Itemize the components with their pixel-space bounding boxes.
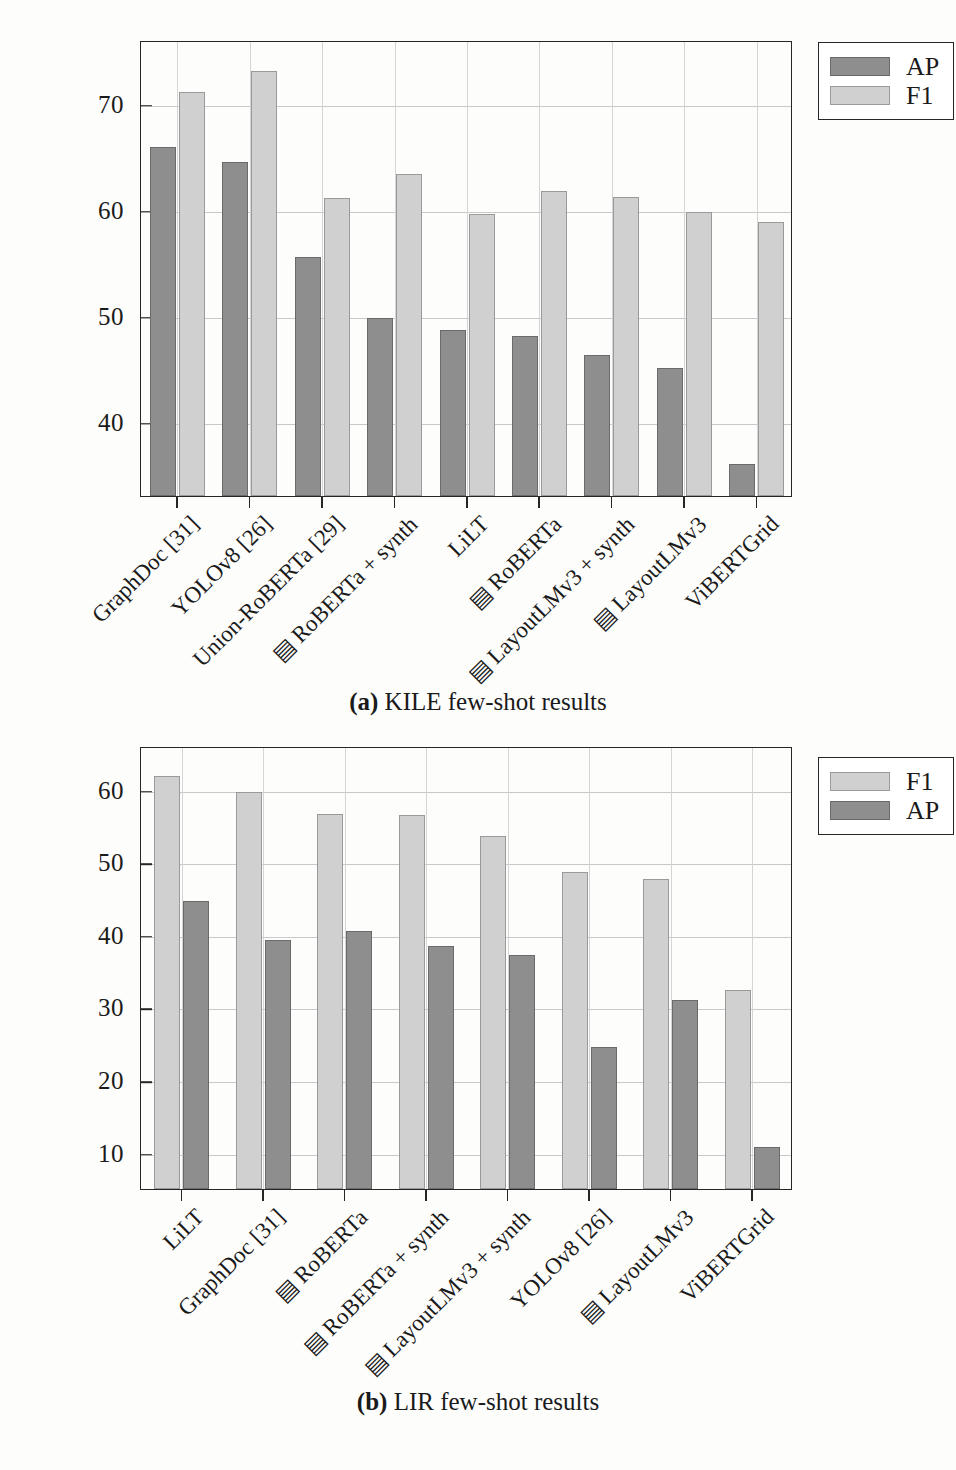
x-tick-label: ▤RoBERTa + synth (266, 511, 422, 667)
legend-item-ap: AP (830, 796, 939, 825)
bar-ap (657, 368, 683, 496)
x-tick-mark (181, 1190, 183, 1201)
legend-swatch-ap (830, 57, 890, 76)
axes-frame-lir (140, 747, 792, 1190)
y-tick-mark (141, 936, 152, 938)
x-gridline (752, 748, 753, 1189)
legend-label: AP (906, 52, 939, 82)
bar-ap (367, 318, 393, 496)
y-tick-label: 50 (72, 849, 124, 877)
x-tick-mark (466, 497, 468, 508)
y-gridline (141, 106, 791, 107)
legend-item-f1: F1 (830, 767, 939, 796)
legend-lir: F1AP (818, 757, 954, 835)
bar-f1 (396, 174, 422, 496)
figure-kile: APF1 (a) KILE few-shot results 40506070A… (0, 0, 956, 735)
bar-ap (295, 257, 321, 496)
y-tick-label: 50 (72, 303, 124, 331)
bar-ap (265, 940, 291, 1189)
x-tick-label: LiLT (443, 511, 494, 562)
plot-area-lir (140, 747, 792, 1190)
bar-ap (512, 336, 538, 496)
y-tick-label: 60 (72, 777, 124, 805)
caption-label: (a) (349, 688, 378, 715)
legend-kile: APF1 (818, 42, 954, 120)
x-tick-label: LiLT (158, 1204, 209, 1255)
y-tick-mark (141, 1154, 152, 1156)
y-tick-mark (141, 791, 152, 793)
y-tick-label: 10 (72, 1140, 124, 1168)
caption-text: KILE few-shot results (385, 688, 607, 715)
y-tick-label: 20 (72, 1067, 124, 1095)
bar-f1 (758, 222, 784, 496)
bar-ap (754, 1147, 780, 1189)
legend-swatch-ap (830, 801, 890, 820)
legend-label: F1 (906, 767, 933, 797)
legend-item-ap: AP (830, 52, 939, 81)
x-tick-mark (683, 497, 685, 508)
x-tick-mark (588, 1190, 590, 1201)
bar-f1 (324, 198, 350, 496)
x-tick-mark (670, 1190, 672, 1201)
bar-ap (672, 1000, 698, 1189)
bar-f1 (643, 879, 669, 1189)
y-tick-mark (141, 863, 152, 865)
bar-ap (346, 931, 372, 1189)
axes-frame-kile (140, 41, 792, 497)
caption-lir: (b) LIR few-shot results (0, 1388, 956, 1416)
legend-label: AP (906, 796, 939, 826)
bar-ap (150, 147, 176, 496)
bar-f1 (541, 191, 567, 496)
y-tick-label: 60 (72, 197, 124, 225)
bar-f1 (154, 776, 180, 1189)
x-tick-mark (321, 497, 323, 508)
bar-f1 (317, 814, 343, 1189)
caption-kile: (a) KILE few-shot results (0, 688, 956, 716)
bar-f1 (251, 71, 277, 496)
bar-ap (183, 901, 209, 1189)
bar-f1 (725, 990, 751, 1189)
bar-f1 (236, 792, 262, 1189)
x-tick-mark (611, 497, 613, 508)
y-tick-mark (141, 105, 152, 107)
x-tick-mark (344, 1190, 346, 1201)
legend-item-f1: F1 (830, 81, 939, 110)
legend-label: F1 (906, 81, 933, 111)
x-tick-label-text: RoBERTa + synth (286, 512, 422, 648)
y-tick-label: 70 (72, 91, 124, 119)
caption-label: (b) (357, 1388, 388, 1415)
bar-ap (509, 955, 535, 1189)
x-tick-mark (538, 497, 540, 508)
bar-f1 (613, 197, 639, 496)
x-tick-label-text: LayoutLMv3 + synth (378, 1205, 535, 1362)
bar-f1 (399, 815, 425, 1189)
x-tick-label-text: RoBERTa (289, 1205, 372, 1288)
bar-ap (584, 355, 610, 496)
bar-ap (591, 1047, 617, 1189)
bar-ap (428, 946, 454, 1189)
bar-ap (222, 162, 248, 496)
figure-lir: F1AP (b) LIR few-shot results 1020304050… (0, 735, 956, 1470)
y-tick-label: 30 (72, 994, 124, 1022)
legend-swatch-f1 (830, 772, 890, 791)
y-tick-label: 40 (72, 409, 124, 437)
bar-f1 (686, 212, 712, 496)
y-tick-mark (141, 1081, 152, 1083)
x-tick-mark (507, 1190, 509, 1201)
x-tick-label: ▤RoBERTa + synth (298, 1204, 454, 1360)
plot-area-kile (140, 41, 792, 497)
x-tick-mark (262, 1190, 264, 1201)
bar-ap (440, 330, 466, 496)
x-tick-mark (249, 497, 251, 508)
x-tick-mark (176, 497, 178, 508)
x-tick-mark (394, 497, 396, 508)
y-tick-mark (141, 1009, 152, 1011)
y-tick-label: 40 (72, 922, 124, 950)
x-tick-mark (756, 497, 758, 508)
bar-f1 (179, 92, 205, 496)
bar-f1 (562, 872, 588, 1189)
bar-ap (729, 464, 755, 496)
bar-f1 (469, 214, 495, 496)
bar-f1 (480, 836, 506, 1189)
legend-swatch-f1 (830, 86, 890, 105)
